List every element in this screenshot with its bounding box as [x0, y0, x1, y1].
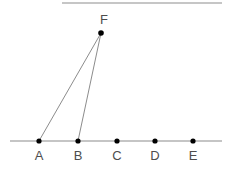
figure-canvas: A B C D E F	[0, 0, 230, 171]
label-b: B	[74, 148, 83, 163]
label-e: E	[189, 148, 198, 163]
geometry-figure: A B C D E F	[0, 0, 230, 171]
point-c	[114, 138, 119, 143]
segment-bf	[78, 33, 101, 141]
label-a: A	[35, 148, 44, 163]
point-group	[36, 30, 195, 143]
point-e	[190, 138, 195, 143]
point-a	[36, 138, 41, 143]
label-c: C	[112, 148, 121, 163]
segment-group	[39, 33, 101, 141]
point-b	[75, 138, 80, 143]
segment-af	[39, 33, 101, 141]
label-f: F	[100, 12, 108, 27]
label-d: D	[150, 148, 159, 163]
point-d	[152, 138, 157, 143]
point-f	[98, 30, 104, 36]
